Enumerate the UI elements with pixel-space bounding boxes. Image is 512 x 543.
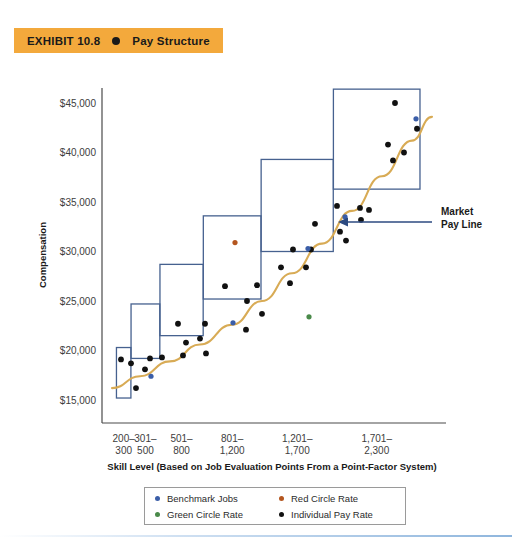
x-axis-tick-label-upper: 501– <box>170 433 193 444</box>
data-point-individual-pay-rate <box>159 355 165 361</box>
data-point-individual-pay-rate <box>197 336 203 342</box>
legend-label: Benchmark Jobs <box>167 493 238 504</box>
legend-item-benchmark-jobs: Benchmark Jobs <box>155 493 279 504</box>
data-point-individual-pay-rate <box>243 327 249 333</box>
data-point-individual-pay-rate <box>203 351 209 357</box>
data-point-individual-pay-rate <box>357 205 363 211</box>
data-point-individual-pay-rate <box>133 385 139 391</box>
data-point-individual-pay-rate <box>366 207 372 213</box>
x-axis-tick-label-upper: 801– <box>221 433 244 444</box>
legend-label: Red Circle Rate <box>291 493 358 504</box>
data-point-individual-pay-rate <box>390 158 396 164</box>
legend-swatch-icon <box>279 496 284 501</box>
y-axis-title: Compensation <box>37 222 48 288</box>
x-axis: 200–300301–500501–800801–1,2001,201–1,70… <box>102 423 446 472</box>
data-point-individual-pay-rate <box>244 298 250 304</box>
data-point-individual-pay-rate <box>287 280 293 286</box>
data-point-individual-pay-rate <box>337 229 343 235</box>
data-point-individual-pay-rate <box>118 357 124 363</box>
legend-swatch-icon <box>155 512 160 517</box>
data-point-individual-pay-rate <box>343 238 349 244</box>
y-axis-tick-label: $35,000 <box>60 197 97 208</box>
market-pay-line-label-line2: Pay Line <box>441 219 483 230</box>
y-axis-tick-label: $40,000 <box>60 147 97 158</box>
pay-grade-box <box>116 348 130 398</box>
x-axis-tick-label-upper: 1,201– <box>282 433 313 444</box>
data-point-individual-pay-rate <box>334 203 340 209</box>
x-axis-tick-labels: 200–300301–500501–800801–1,2001,201–1,70… <box>113 433 393 456</box>
data-point-benchmark-jobs <box>148 374 153 379</box>
data-point-individual-pay-rate <box>401 150 407 156</box>
data-point-individual-pay-rate <box>312 221 318 227</box>
legend-item-individual-pay-rate: Individual Pay Rate <box>279 509 413 520</box>
data-point-green-circle-rate <box>306 314 311 319</box>
chart-canvas: $15,000$20,000$25,000$30,000$35,000$40,0… <box>0 0 512 543</box>
data-points-layer <box>118 100 420 391</box>
data-point-individual-pay-rate <box>183 340 189 346</box>
data-point-individual-pay-rate <box>147 356 153 362</box>
data-point-benchmark-jobs <box>230 320 235 325</box>
x-axis-tick-label-lower: 2,300 <box>364 445 389 456</box>
y-axis-tick-label: $15,000 <box>60 395 97 406</box>
x-axis-tick-label-lower: 1,200 <box>220 445 245 456</box>
data-point-individual-pay-rate <box>290 247 296 253</box>
pay-grade-boxes <box>116 89 420 398</box>
market-pay-line-label-line1: Market <box>441 206 474 217</box>
legend-item-green-circle-rate: Green Circle Rate <box>155 509 279 520</box>
y-axis-tick-label: $45,000 <box>60 98 97 109</box>
pay-grade-box <box>160 264 203 335</box>
data-point-benchmark-jobs <box>413 116 418 121</box>
data-point-individual-pay-rate <box>278 264 284 270</box>
data-point-individual-pay-rate <box>303 264 309 270</box>
legend-swatch-icon <box>155 496 160 501</box>
legend-label: Individual Pay Rate <box>291 509 373 520</box>
x-axis-tick-label-lower: 300 <box>115 445 132 456</box>
data-point-benchmark-jobs <box>305 246 310 251</box>
data-point-individual-pay-rate <box>385 142 391 148</box>
legend-swatch-icon <box>279 512 284 517</box>
x-axis-tick-label-lower: 800 <box>173 445 190 456</box>
data-point-individual-pay-rate <box>414 126 420 132</box>
data-point-individual-pay-rate <box>128 360 134 366</box>
data-point-individual-pay-rate <box>254 282 260 288</box>
y-axis-tick-label: $30,000 <box>60 246 97 257</box>
pay-grade-box <box>333 89 420 189</box>
x-axis-tick-label-lower: 1,700 <box>285 445 310 456</box>
pay-grade-box <box>131 304 160 358</box>
data-point-individual-pay-rate <box>222 283 228 289</box>
pay-structure-chart: $15,000$20,000$25,000$30,000$35,000$40,0… <box>0 0 512 543</box>
data-point-individual-pay-rate <box>259 311 265 317</box>
data-point-red-circle-rate <box>232 240 237 245</box>
data-point-individual-pay-rate <box>180 353 186 359</box>
data-point-individual-pay-rate <box>142 366 148 372</box>
page-bottom-rule <box>0 535 512 537</box>
y-axis-tick-labels: $15,000$20,000$25,000$30,000$35,000$40,0… <box>60 98 97 406</box>
y-axis-tick-label: $20,000 <box>60 345 97 356</box>
data-point-individual-pay-rate <box>175 321 181 327</box>
y-axis: $15,000$20,000$25,000$30,000$35,000$40,0… <box>37 88 102 423</box>
x-axis-tick-label-upper: 200– <box>113 433 136 444</box>
x-axis-tick-label-lower: 500 <box>137 445 154 456</box>
chart-legend: Benchmark Jobs Red Circle Rate Green Cir… <box>144 487 406 525</box>
pay-grade-box <box>261 159 333 251</box>
arrow-head-icon <box>338 218 348 227</box>
legend-label: Green Circle Rate <box>167 509 243 520</box>
data-point-individual-pay-rate <box>202 321 208 327</box>
legend-item-red-circle-rate: Red Circle Rate <box>279 493 413 504</box>
pay-grade-box <box>203 216 261 299</box>
x-axis-tick-label-upper: 1,701– <box>361 433 392 444</box>
y-axis-tick-label: $25,000 <box>60 296 97 307</box>
x-axis-tick-label-upper: 301– <box>134 433 157 444</box>
data-point-individual-pay-rate <box>392 100 398 106</box>
x-axis-title: Skill Level (Based on Job Evaluation Poi… <box>107 461 436 472</box>
